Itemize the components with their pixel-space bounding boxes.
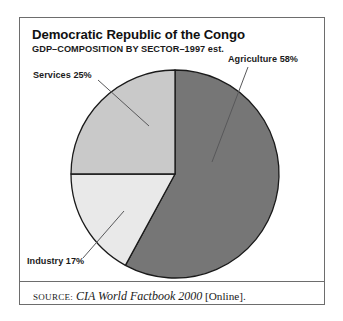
- pie-label-agriculture: Agriculture 58%: [228, 54, 298, 64]
- source-kicker: SOURCE:: [33, 292, 73, 302]
- pie-label-industry: Industry 17%: [27, 256, 84, 266]
- pie-label-services: Services 25%: [33, 70, 92, 80]
- chart-figure: Democratic Republic of the Congo GDP–COM…: [19, 17, 325, 305]
- source-suffix: [Online].: [205, 290, 246, 302]
- source-work-title: CIA World Factbook 2000: [76, 289, 202, 303]
- pie-slice-services[interactable]: [71, 70, 175, 174]
- source-note: SOURCE: CIA World Factbook 2000 [Online]…: [33, 289, 246, 304]
- source-divider: [20, 281, 324, 282]
